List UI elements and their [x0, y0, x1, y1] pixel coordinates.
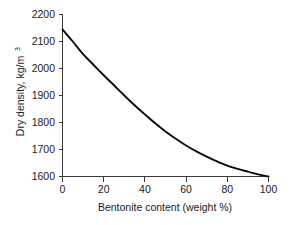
y-axis-title-group: Dry density, kg/m 3: [14, 47, 27, 136]
chart-plot-svg: 1600 1700 1800 1900 2000 2100 2200 0 20 …: [0, 0, 297, 225]
y-tick-label: 2200: [32, 8, 56, 20]
x-tick-label: 40: [139, 183, 151, 195]
x-tick-label: 100: [260, 183, 278, 195]
x-tick-label: 20: [98, 183, 110, 195]
x-tick-label: 80: [221, 183, 233, 195]
y-axis-title: Dry density, kg/m: [14, 56, 26, 137]
x-tick-label: 60: [180, 183, 192, 195]
y-tick-label: 1900: [32, 89, 56, 101]
y-tick-label: 1700: [32, 143, 56, 155]
x-tick-label: 0: [60, 183, 66, 195]
y-tick-label: 2000: [32, 62, 56, 74]
y-tick-label: 1600: [32, 170, 56, 182]
y-tick-label: 2100: [32, 35, 56, 47]
x-axis-title: Bentonite content (weight %): [98, 201, 232, 213]
chart-figure: 1600 1700 1800 1900 2000 2100 2200 0 20 …: [0, 0, 297, 225]
y-axis-title-superscript: 3: [14, 47, 21, 51]
y-tick-label: 1800: [32, 116, 56, 128]
